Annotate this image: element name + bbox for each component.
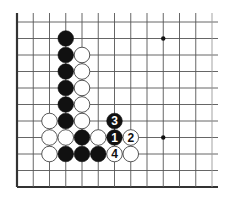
black-stone [58,31,74,47]
star-point-icon [161,135,165,139]
black-stone [58,64,74,80]
white-stone [42,146,58,162]
black-stone [58,97,74,113]
white-stone [74,113,90,129]
white-stone [42,130,58,146]
black-stone [74,146,90,162]
move-1: 1 [107,130,123,146]
black-stone [58,47,74,63]
white-stone [123,146,139,162]
go-board: 1234 [0,0,236,201]
white-stone [42,113,58,129]
move-number-label: 1 [111,131,118,145]
black-stone [58,146,74,162]
white-stone [74,97,90,113]
move-3: 3 [107,113,123,129]
black-stone [90,146,106,162]
star-point-icon [161,36,165,40]
move-4: 4 [107,146,123,162]
move-number-label: 3 [111,114,118,128]
move-number-label: 2 [127,131,134,145]
move-2: 2 [123,130,139,146]
white-stone [74,47,90,63]
white-stone [74,64,90,80]
black-stone [58,80,74,96]
move-number-label: 4 [111,147,118,161]
black-stone [74,130,90,146]
white-stone [74,80,90,96]
white-stone [58,130,74,146]
white-stone [90,130,106,146]
black-stone [58,113,74,129]
